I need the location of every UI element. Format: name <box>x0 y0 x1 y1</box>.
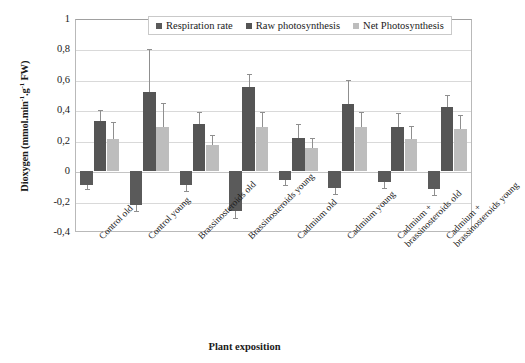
error-bar <box>447 95 448 107</box>
bar <box>328 171 341 188</box>
legend-swatch-icon <box>246 23 252 29</box>
y-axis-title-sup1: -1 <box>18 96 26 101</box>
error-bar <box>398 113 399 127</box>
bar-group <box>75 19 125 232</box>
y-axis-title: Dioxygen (mmol.min-1.g-1 FW) <box>18 26 31 226</box>
x-axis-title: Plant exposition <box>0 341 489 352</box>
error-bar-cap <box>247 74 252 75</box>
y-tick-label: 0,8 <box>30 44 70 54</box>
error-bar-cap <box>409 126 414 127</box>
error-bar <box>199 112 200 124</box>
legend-swatch-icon <box>156 23 162 29</box>
bar <box>292 138 305 171</box>
y-axis-title-sup2: -1 <box>18 83 26 88</box>
error-bar-cap <box>184 191 189 192</box>
y-axis-title-mid: .g <box>19 88 30 95</box>
y-axis-title-main: Dioxygen (mmol.min <box>19 101 30 191</box>
error-bar <box>212 135 213 146</box>
bar <box>355 127 368 171</box>
bar-group <box>125 19 175 232</box>
y-tick-label: -0,4 <box>30 227 70 237</box>
legend-swatch-icon <box>353 23 359 29</box>
y-tick-label: 1 <box>30 14 70 24</box>
error-bar <box>460 115 461 129</box>
bar <box>391 127 404 171</box>
bar <box>130 171 143 204</box>
bar <box>143 92 156 171</box>
error-bar-cap <box>260 112 265 113</box>
y-tick-label: 0,6 <box>30 75 70 85</box>
error-bar <box>100 110 101 121</box>
bar <box>305 148 318 171</box>
error-bar <box>262 112 263 127</box>
error-bar <box>113 122 114 139</box>
legend-item-net-photosynthesis: Net Photosynthesis <box>353 20 444 31</box>
bar <box>180 171 193 185</box>
error-bar <box>149 49 150 92</box>
error-bar-cap <box>283 185 288 186</box>
error-bar-cap <box>161 103 166 104</box>
error-bar <box>249 74 250 88</box>
bar <box>378 171 391 182</box>
error-bar-cap <box>233 218 238 219</box>
error-bar-cap <box>85 189 90 190</box>
legend-item-raw-photosynthesis: Raw photosynthesis <box>246 20 340 31</box>
bars-layer <box>75 19 472 232</box>
y-tick-label: 0 <box>30 166 70 176</box>
error-bar-cap <box>197 112 202 113</box>
error-bar-cap <box>333 194 338 195</box>
error-bar-cap <box>296 124 301 125</box>
legend-label: Raw photosynthesis <box>256 20 340 31</box>
legend-item-respiration-rate: Respiration rate <box>156 20 233 31</box>
bar <box>279 171 292 180</box>
error-bar <box>361 112 362 127</box>
bar <box>242 87 255 171</box>
legend-label: Respiration rate <box>166 20 233 31</box>
bar <box>80 171 93 185</box>
error-bar-cap <box>346 80 351 81</box>
y-tick-label: 0,2 <box>30 136 70 146</box>
error-bar <box>348 80 349 104</box>
bar <box>405 139 418 171</box>
bar <box>193 124 206 171</box>
error-bar-cap <box>445 95 450 96</box>
error-bar-cap <box>382 188 387 189</box>
error-bar-cap <box>147 49 152 50</box>
bar <box>107 139 120 171</box>
bar <box>428 171 441 189</box>
bar <box>156 127 169 171</box>
bar <box>256 127 269 171</box>
error-bar-cap <box>210 135 215 136</box>
bar <box>206 145 219 171</box>
error-bar <box>411 126 412 140</box>
x-axis-ticks: Control oldControl youngBrassinosteroids… <box>75 234 472 344</box>
y-tick-label: -0,2 <box>30 197 70 207</box>
chart-legend: Respiration rate Raw photosynthesis Net … <box>148 16 452 35</box>
legend-label: Net Photosynthesis <box>363 20 444 31</box>
error-bar-cap <box>359 112 364 113</box>
y-tick-label: 0,4 <box>30 105 70 115</box>
bar <box>441 107 454 171</box>
error-bar <box>163 103 164 127</box>
error-bar <box>298 124 299 138</box>
error-bar <box>312 138 313 149</box>
error-bar-cap <box>111 122 116 123</box>
error-bar-cap <box>396 113 401 114</box>
error-bar-cap <box>98 110 103 111</box>
y-axis-title-tail: FW) <box>19 61 30 83</box>
error-bar <box>235 211 236 219</box>
error-bar-cap <box>310 138 315 139</box>
bar <box>94 121 107 171</box>
error-bar-cap <box>458 115 463 116</box>
bar <box>342 104 355 171</box>
